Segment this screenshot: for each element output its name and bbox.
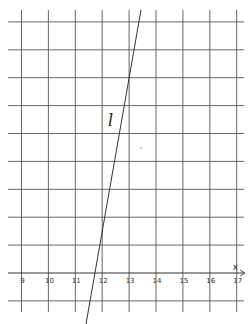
tick-label-9: 9 — [20, 277, 24, 285]
x-axis-tick-labels: 91011121314151617 — [20, 277, 242, 285]
tick-label-15: 15 — [179, 277, 188, 285]
tick-label-12: 12 — [99, 277, 108, 285]
tick-label-10: 10 — [45, 277, 54, 285]
tick-label-17: 17 — [233, 277, 242, 285]
grid-svg: 91011121314151617 x l — [0, 0, 252, 324]
tick-label-11: 11 — [72, 277, 81, 285]
tick-label-13: 13 — [126, 277, 135, 285]
tick-label-14: 14 — [153, 277, 162, 285]
line-l-label: l — [108, 111, 113, 130]
tick-label-16: 16 — [206, 277, 215, 285]
x-axis-label: x — [233, 263, 238, 272]
coordinate-grid-diagram: 91011121314151617 x l — [0, 0, 252, 324]
horizontal-grid-lines — [8, 22, 244, 301]
point-marker — [140, 147, 142, 149]
